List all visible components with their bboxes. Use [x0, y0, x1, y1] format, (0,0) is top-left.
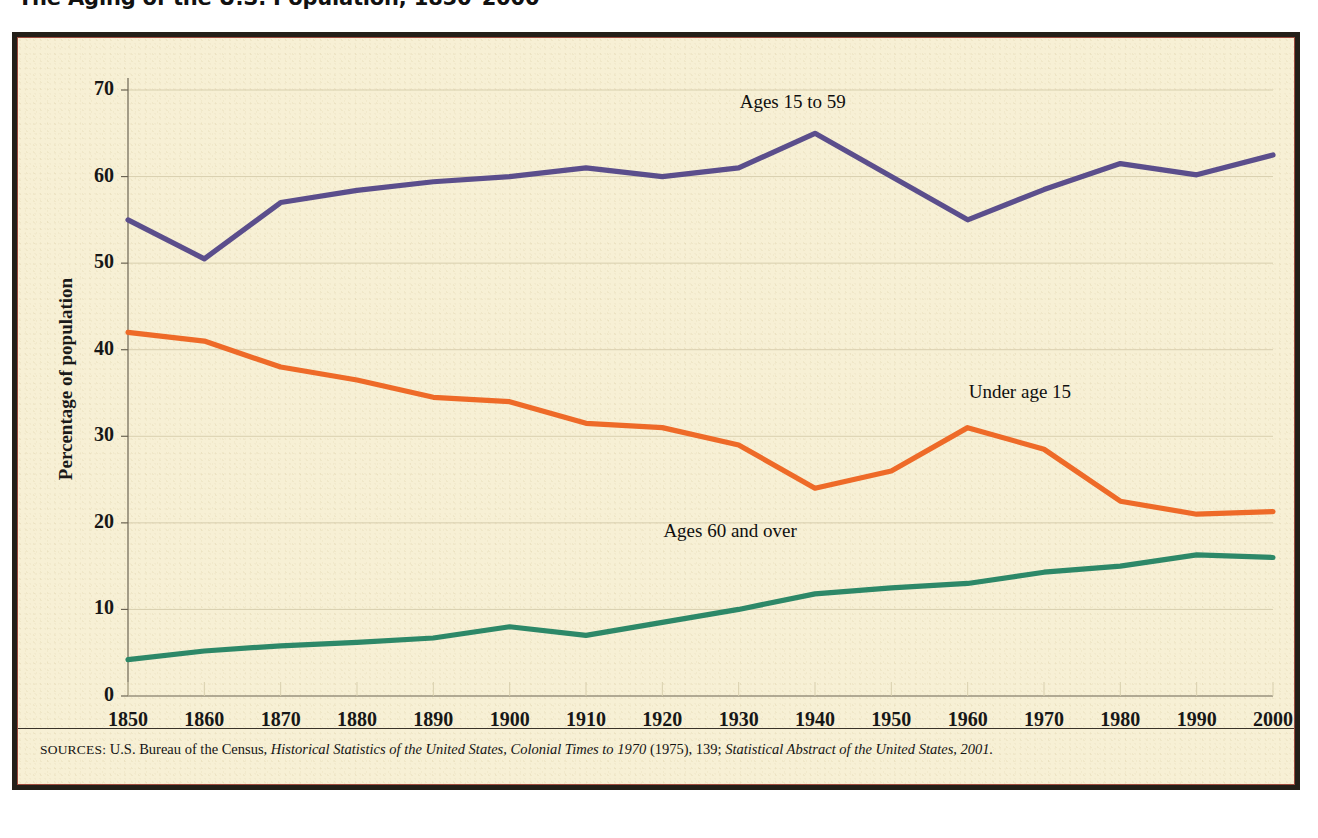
line-chart-svg	[18, 38, 1295, 785]
y-axis-title: Percentage of population	[55, 219, 77, 539]
source-italic1: Historical Statistics of the United Stat…	[271, 741, 646, 757]
series-line	[128, 133, 1273, 259]
series-label: Under age 15	[969, 381, 1071, 403]
source-note: SOURCES: U.S. Bureau of the Census, Hist…	[40, 741, 1276, 758]
series-line	[128, 332, 1273, 514]
chart-page: The Aging of the U.S. Population, 1850–2…	[0, 0, 1318, 838]
source-label: SOURCES:	[40, 742, 106, 757]
y-tick-label: 60	[52, 164, 114, 187]
source-part2: (1975), 139;	[650, 741, 722, 757]
series-label: Ages 15 to 59	[740, 91, 846, 113]
y-tick-label: 0	[52, 683, 114, 706]
series-label: Ages 60 and over	[663, 520, 797, 542]
y-tick-label: 10	[52, 596, 114, 619]
y-tick-label: 70	[52, 77, 114, 100]
source-part1: U.S. Bureau of the Census,	[110, 741, 267, 757]
source-italic2: Statistical Abstract of the United State…	[725, 741, 993, 757]
series-line	[128, 555, 1273, 660]
figure-frame: 0102030405060701850186018701880189019001…	[12, 32, 1300, 790]
figure-inner: 0102030405060701850186018701880189019001…	[17, 37, 1295, 785]
page-title: The Aging of the U.S. Population, 1850–2…	[18, 0, 918, 16]
source-divider	[18, 728, 1294, 729]
plot-area: 0102030405060701850186018701880189019001…	[18, 38, 1294, 784]
